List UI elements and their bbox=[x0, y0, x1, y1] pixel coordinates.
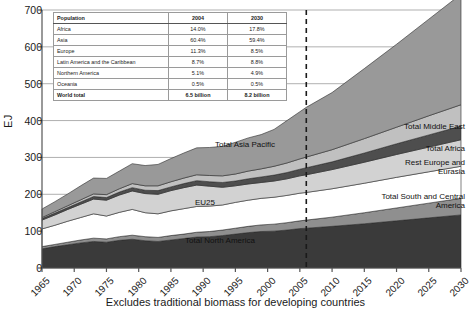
series-label-rest-europe-line1: Rest Europe and bbox=[405, 158, 465, 167]
region-name: Northern America bbox=[54, 68, 169, 79]
region-name: Europe bbox=[54, 46, 169, 57]
x-axis-caption: Excludes traditional biomass for develop… bbox=[0, 296, 471, 308]
population-table-body: Africa14.0%17.8%Asia60.4%59.4%Europe11.3… bbox=[54, 24, 287, 101]
series-label-south-central-america: Total South and Central America bbox=[330, 192, 465, 210]
value-2004: 8.7% bbox=[169, 57, 228, 68]
series-label-south-central-line1: Total South and Central bbox=[381, 192, 465, 201]
header-2030: 2030 bbox=[228, 13, 287, 24]
total-label: World total bbox=[54, 90, 169, 101]
value-2004: 0.5% bbox=[169, 79, 228, 90]
table-row: Northern America5.1%4.9% bbox=[54, 68, 287, 79]
value-2030: 8.5% bbox=[228, 46, 287, 57]
series-label-asia-pacific: Total Asia Pacific bbox=[185, 140, 305, 149]
series-label-rest-europe-eurasia: Rest Europe and Eurasia bbox=[340, 158, 465, 176]
table-row: Oceania0.5%0.5% bbox=[54, 79, 287, 90]
region-name: Africa bbox=[54, 24, 169, 35]
table-row: Latin America and the Caribbean8.7%8.8% bbox=[54, 57, 287, 68]
total-2030: 8.2 billion bbox=[228, 90, 287, 101]
value-2030: 4.9% bbox=[228, 68, 287, 79]
value-2004: 60.4% bbox=[169, 35, 228, 46]
table-row: Africa14.0%17.8% bbox=[54, 24, 287, 35]
series-label-africa: Total Africa bbox=[347, 144, 465, 153]
value-2030: 0.5% bbox=[228, 79, 287, 90]
region-name: Oceania bbox=[54, 79, 169, 90]
table-total-row: World total6.5 billion8.2 billion bbox=[54, 90, 287, 101]
table-row: Europe11.3%8.5% bbox=[54, 46, 287, 57]
region-name: Asia bbox=[54, 35, 169, 46]
series-label-eu25: EU25 bbox=[175, 198, 235, 207]
series-label-middle-east: Total Middle East bbox=[347, 122, 465, 131]
header-population: Population bbox=[54, 13, 169, 24]
table-row: Asia60.4%59.4% bbox=[54, 35, 287, 46]
value-2004: 5.1% bbox=[169, 68, 228, 79]
series-label-north-america: Total North America bbox=[155, 236, 285, 245]
value-2030: 17.8% bbox=[228, 24, 287, 35]
header-2004: 2004 bbox=[169, 13, 228, 24]
energy-consumption-area-chart: EJ 0100200300400500600700 19651970197519… bbox=[0, 0, 471, 317]
region-name: Latin America and the Caribbean bbox=[54, 57, 169, 68]
value-2030: 59.4% bbox=[228, 35, 287, 46]
series-label-rest-europe-line2: Eurasia bbox=[438, 167, 465, 176]
table-header-row: Population 2004 2030 bbox=[54, 13, 287, 24]
value-2030: 8.8% bbox=[228, 57, 287, 68]
value-2004: 11.3% bbox=[169, 46, 228, 57]
series-label-south-central-line2: America bbox=[436, 201, 465, 210]
population-table: Population 2004 2030 Africa14.0%17.8%Asi… bbox=[53, 12, 287, 101]
population-table-header: Population 2004 2030 bbox=[54, 13, 287, 24]
value-2004: 14.0% bbox=[169, 24, 228, 35]
total-2004: 6.5 billion bbox=[169, 90, 228, 101]
